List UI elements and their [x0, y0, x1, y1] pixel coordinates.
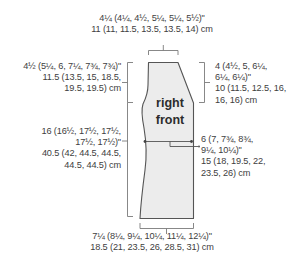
length-bracket: [122, 103, 133, 217]
neck-depth-line-1: 4 (4½, 5, 6¼,: [215, 61, 304, 72]
armhole-depth-measurement: 4½ (5¼, 6, 7¼, 7¾, 7¾)" 11.5 (13.5, 15, …: [0, 61, 121, 95]
waist-arrow-left-dot: [144, 140, 147, 143]
bottom-width-cm: 18.5 (21, 23.5, 26, 28.5, 31) cm: [52, 242, 252, 253]
piece-title-line-1: right: [147, 95, 193, 112]
bottom-width-measurement: 7¼ (8¼, 9¼, 10¼, 11¼, 12¼)" 18.5 (21, 23…: [52, 231, 252, 253]
armhole-depth-line-3: 19.5, 19.5) cm: [0, 83, 121, 94]
piece-title-line-2: front: [147, 112, 193, 129]
armhole-depth-line-1: 4½ (5¼, 6, 7¼, 7¾, 7¾)": [0, 61, 121, 72]
waist-width-line-4: 23.5, 26) cm: [201, 168, 301, 179]
neck-depth-measurement: 4 (4½, 5, 6¼, 6¼, 6¼)" 10 (11.5, 12.5, 1…: [215, 61, 304, 106]
top-shoulder-bracket: [149, 45, 179, 55]
length-measurement: 16 (16½, 17½, 17½, 17½, 17½)" 40.5 (42, …: [0, 126, 121, 171]
waist-width-measurement: 6 (7, 7¾, 8¾, 9¼, 10¼)" 15 (18, 19.5, 22…: [201, 134, 301, 179]
waist-arrow-right-dot: [190, 140, 193, 143]
neck-depth-line-4: 16, 16) cm: [215, 95, 304, 106]
length-line-1: 16 (16½, 17½, 17½,: [0, 126, 121, 137]
armhole-depth-line-2: 11.5 (13.5, 15, 18.5,: [0, 72, 121, 83]
neck-depth-line-2: 6¼, 6¼)": [215, 72, 304, 83]
neck-depth-line-3: 10 (11.5, 12.5, 16,: [215, 83, 304, 94]
armhole-depth-bracket: [122, 63, 133, 103]
top-shoulder-inches: 4¼ (4¼, 4½, 5¼, 5¼, 5½)": [62, 13, 242, 24]
piece-title: right front: [147, 95, 193, 129]
top-shoulder-cm: 11 (11, 11.5, 13.5, 13.5, 14) cm: [62, 24, 242, 35]
waist-leader-dot: [198, 146, 200, 148]
waist-width-line-3: 15 (18, 19.5, 22,: [201, 156, 301, 167]
length-line-2: 17½, 17½)": [0, 137, 121, 148]
right-front-piece-shape: [140, 63, 194, 219]
length-line-3: 40.5 (42, 44.5, 44.5,: [0, 148, 121, 159]
waist-width-line-1: 6 (7, 7¾, 8¾,: [201, 134, 301, 145]
waist-width-line-2: 9¼, 10¼)": [201, 145, 301, 156]
top-shoulder-measurement: 4¼ (4¼, 4½, 5¼, 5¼, 5½)" 11 (11, 11.5, 1…: [62, 13, 242, 35]
length-line-4: 44.5, 44.5) cm: [0, 160, 121, 171]
bottom-width-inches: 7¼ (8¼, 9¼, 10¼, 11¼, 12¼)": [52, 231, 252, 242]
neck-depth-bracket: [199, 63, 210, 103]
